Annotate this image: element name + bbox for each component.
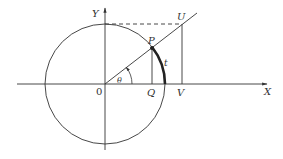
label-q: Q	[147, 87, 155, 98]
point-p-dot	[150, 46, 154, 50]
label-u: U	[177, 11, 186, 22]
label-t: t	[164, 58, 168, 68]
label-y-axis: Y	[92, 8, 100, 19]
label-theta: θ	[117, 76, 122, 85]
label-v: V	[177, 87, 186, 98]
label-origin: 0	[96, 86, 102, 97]
unit-circle-diagram: Y X 0 P Q U V θ t	[0, 0, 283, 159]
label-x-axis: X	[263, 86, 272, 97]
angle-arc	[126, 67, 132, 84]
label-p: P	[147, 35, 155, 46]
